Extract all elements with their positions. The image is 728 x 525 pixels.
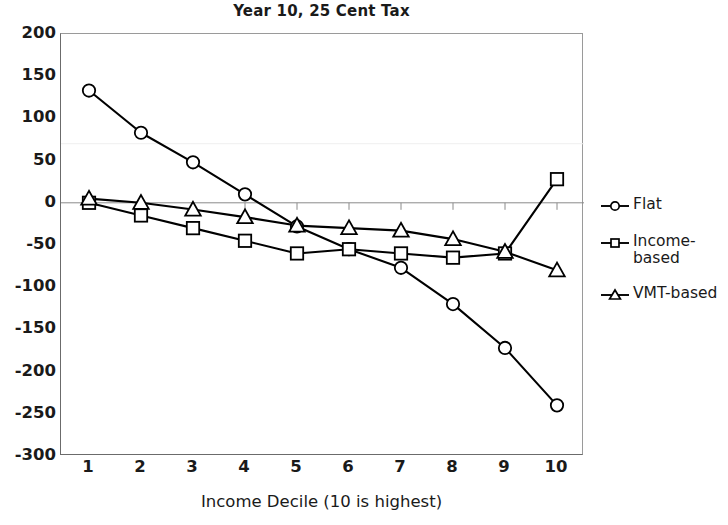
x-axis-tick-label: 2	[118, 459, 162, 476]
legend-marker	[611, 239, 619, 247]
square-marker	[600, 234, 630, 252]
square-marker	[343, 243, 355, 255]
x-axis-title: Income Decile (10 is highest)	[60, 492, 583, 511]
x-axis-tick-label: 4	[222, 459, 266, 476]
x-axis-tick-label: 3	[170, 459, 214, 476]
x-axis-tick-label: 1	[66, 459, 110, 476]
y-axis-tick-label: 0	[4, 194, 56, 211]
circle-marker	[395, 262, 407, 274]
circle-marker	[551, 399, 563, 411]
circle-marker	[499, 342, 511, 354]
chart-container: Year 10, 25 Cent Tax 200150100500-50-100…	[0, 0, 728, 525]
x-axis-tick-label: 5	[274, 459, 318, 476]
legend-marker-sample	[600, 286, 630, 304]
legend-label: Income- based	[633, 233, 696, 267]
circle-marker	[135, 127, 147, 139]
y-axis-tick-label: -250	[4, 405, 56, 422]
square-marker	[239, 235, 251, 247]
square-marker	[135, 209, 147, 221]
circle-marker	[239, 188, 251, 200]
circle-marker	[611, 202, 619, 210]
series-income-based	[89, 179, 557, 257]
circle-marker	[600, 197, 630, 215]
y-axis-tick-label: -50	[4, 236, 56, 253]
triangle-marker	[600, 286, 630, 304]
y-axis-tick-label: 200	[4, 25, 56, 42]
circle-marker	[187, 156, 199, 168]
circle-marker	[83, 84, 95, 96]
y-axis-tick-labels: 200150100500-50-100-150-200-250-300	[0, 0, 56, 525]
square-marker	[291, 247, 303, 259]
legend-marker-sample	[600, 234, 630, 252]
x-axis-tick-label: 6	[326, 459, 370, 476]
y-axis-tick-label: -300	[4, 447, 56, 464]
x-axis-tick-label: 10	[534, 459, 578, 476]
legend-marker	[611, 202, 619, 210]
legend-marker-sample	[600, 197, 630, 215]
legend-entry[interactable]: VMT-based	[600, 285, 728, 304]
chart-title: Year 10, 25 Cent Tax	[60, 2, 583, 20]
square-marker	[551, 173, 563, 185]
legend-entry[interactable]: Income- based	[600, 233, 728, 267]
y-axis-tick-label: 50	[4, 151, 56, 168]
y-axis-tick-label: -150	[4, 320, 56, 337]
square-marker	[447, 251, 459, 263]
series-line	[89, 199, 557, 271]
y-axis-tick-label: -100	[4, 278, 56, 295]
square-marker	[611, 239, 619, 247]
y-axis-tick-label: 150	[4, 67, 56, 84]
legend-label: Flat	[633, 196, 662, 213]
x-axis-tick-label: 9	[482, 459, 526, 476]
y-axis-tick-label: -200	[4, 362, 56, 379]
legend-entry[interactable]: Flat	[600, 196, 728, 215]
chart-legend: FlatIncome- basedVMT-based	[600, 196, 728, 322]
x-axis-tick-label: 8	[430, 459, 474, 476]
series-line	[89, 179, 557, 257]
plot-area	[60, 33, 583, 455]
y-axis-tick-label: 100	[4, 109, 56, 126]
square-marker	[395, 247, 407, 259]
legend-label: VMT-based	[633, 285, 717, 302]
series-vmt-based	[89, 199, 557, 271]
plot-svg	[61, 34, 584, 456]
square-marker	[187, 222, 199, 234]
x-axis-tick-label: 7	[378, 459, 422, 476]
x-axis-tick-labels: 12345678910	[60, 459, 583, 485]
circle-marker	[447, 298, 459, 310]
